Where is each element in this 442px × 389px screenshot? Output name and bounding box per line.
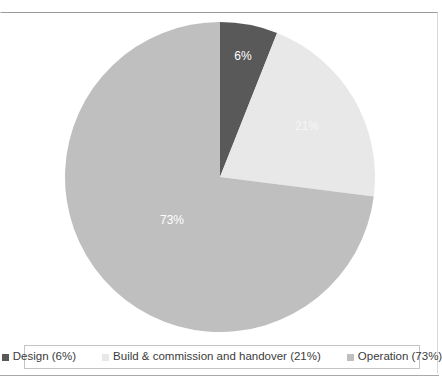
pie-slice-label-3: 73% [160,213,184,227]
pie-slice-group [65,22,375,332]
bottom-divider-rule [0,375,439,376]
pie-slice-label-1: 6% [234,49,252,63]
square-marker-build [102,354,109,361]
square-marker-design [2,354,9,361]
legend-label-operation: Operation (73%) [358,351,442,363]
legend-label-design: Design (6%) [13,351,76,363]
pie-chart-plot-area: 6%21%73% [65,22,375,332]
legend-item-operation[interactable]: Operation (73%) [347,351,442,363]
pie-chart-svg: 6%21%73% [65,22,375,332]
legend-item-build-commission-handover[interactable]: Build & commission and handover (21%) [102,351,321,363]
chart-legend: Design (6%) Build & commission and hando… [24,345,420,369]
legend-label-build-commission-handover: Build & commission and handover (21%) [113,351,321,363]
pie-slice-label-2: 21% [295,119,319,133]
legend-item-design[interactable]: Design (6%) [2,351,76,363]
square-marker-operation [347,354,354,361]
